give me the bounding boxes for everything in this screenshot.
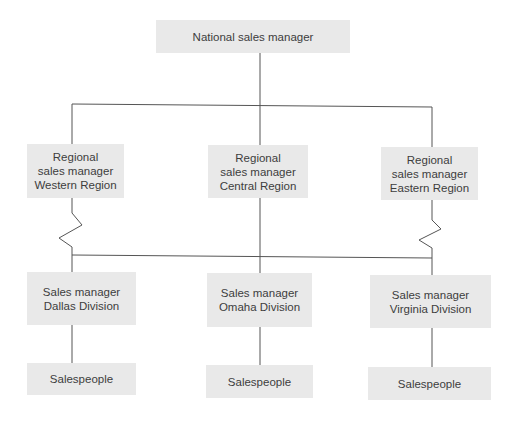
org-chart: National sales manager Regional sales ma…	[0, 0, 513, 426]
node-label: Salespeople	[50, 372, 113, 386]
node-label: Sales manager Dallas Division	[43, 285, 120, 313]
node-regional-western: Regional sales manager Western Region	[27, 144, 124, 198]
western-zigzag-line	[59, 198, 82, 272]
node-national-sales-manager: National sales manager	[156, 20, 350, 53]
node-label: National sales manager	[193, 30, 314, 44]
node-regional-eastern: Regional sales manager Eastern Region	[381, 147, 478, 200]
node-regional-central: Regional sales manager Central Region	[208, 145, 308, 198]
node-division-dallas: Sales manager Dallas Division	[27, 272, 136, 325]
node-label: Salespeople	[228, 375, 291, 389]
node-label: Regional sales manager Eastern Region	[390, 153, 469, 195]
node-salespeople-dallas: Salespeople	[27, 363, 136, 395]
eastern-zigzag-line	[419, 200, 441, 275]
node-label: Salespeople	[398, 377, 461, 391]
region-bus-line	[72, 104, 432, 107]
node-salespeople-omaha: Salespeople	[206, 365, 313, 398]
node-division-omaha: Sales manager Omaha Division	[207, 273, 312, 327]
division-bus-line	[72, 255, 432, 258]
node-label: Sales manager Virginia Division	[390, 288, 472, 316]
node-salespeople-virginia: Salespeople	[368, 367, 491, 400]
node-label: Regional sales manager Central Region	[220, 151, 297, 193]
node-label: Regional sales manager Western Region	[34, 150, 116, 192]
node-label: Sales manager Omaha Division	[219, 286, 300, 314]
node-division-virginia: Sales manager Virginia Division	[370, 275, 491, 328]
